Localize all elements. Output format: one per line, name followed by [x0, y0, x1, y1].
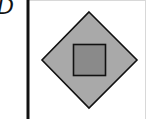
inner-square — [74, 45, 106, 76]
figure — [0, 0, 147, 119]
